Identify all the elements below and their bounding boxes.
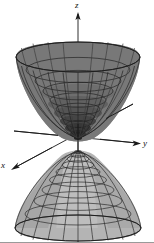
y-axis-front-segment-left <box>14 131 58 135</box>
z-axis-label: z <box>75 1 79 10</box>
lower-nappe <box>15 150 141 241</box>
hyperboloid-figure: z y x <box>0 0 154 243</box>
x-axis-label: x <box>1 161 5 170</box>
y-axis-label: y <box>143 139 147 148</box>
hyperboloid-plot <box>0 0 154 243</box>
x-axis-front-segment-lower <box>14 148 52 169</box>
y-axis-front-segment-right <box>100 139 137 143</box>
